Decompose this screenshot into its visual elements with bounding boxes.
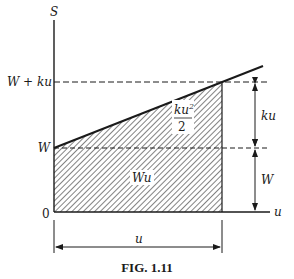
load-work-diagram: S u 0 W + ku W ku2 2 Wu ku W u FIG. 1.11 bbox=[0, 0, 294, 279]
y-axis-label: S bbox=[50, 5, 58, 19]
dim-ku-arrow-up bbox=[252, 83, 258, 91]
dim-w-arrow-down bbox=[252, 203, 258, 211]
dim-ku-label: ku bbox=[261, 109, 276, 123]
dim-u-label: u bbox=[135, 232, 143, 246]
rectangle-label: Wu bbox=[132, 171, 152, 185]
figure-caption: FIG. 1.11 bbox=[121, 260, 173, 275]
dim-w-label: W bbox=[261, 173, 275, 187]
dim-u-arrow-right bbox=[213, 244, 221, 250]
tick-w: W bbox=[38, 141, 52, 155]
origin-label: 0 bbox=[42, 207, 50, 221]
tick-w-plus-ku: W + ku bbox=[7, 75, 52, 89]
dim-u-arrow-left bbox=[55, 244, 63, 250]
dim-w-arrow-up bbox=[252, 149, 258, 157]
x-axis-label: u bbox=[274, 205, 282, 219]
triangle-label-denominator: 2 bbox=[178, 120, 186, 134]
dim-ku-arrow-down bbox=[252, 139, 258, 147]
